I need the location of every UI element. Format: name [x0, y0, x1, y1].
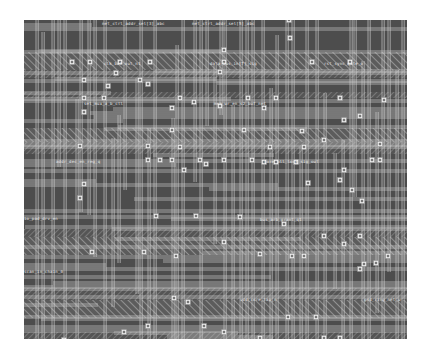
net-label: scan_in_chain_0	[24, 270, 63, 274]
net-label: sel_mux_a_b_ctl	[84, 102, 123, 106]
net-label: core_pll_lock_sig_out	[264, 160, 319, 164]
routing-diagram	[24, 20, 407, 339]
net-label: gnd_ring_net_w	[364, 298, 401, 302]
net-label: rst_sync_gate_o	[324, 62, 363, 66]
net-label: mem_wr_en_s2_buf_net	[214, 102, 266, 106]
net-label: net_ctrl_addr_sel[3]_abc	[102, 22, 165, 26]
net-label: bus_arb_grant_q1	[260, 218, 302, 222]
net-label: net_ctrl_addr_sel[5]_abc	[192, 22, 255, 26]
net-label: addr_dec_en_reg_q	[56, 160, 100, 164]
net-label: io_pad_drv_en	[24, 217, 58, 221]
via-icon	[62, 338, 67, 340]
net-label: data_bus_in[7]_sig	[210, 62, 257, 66]
layout-canvas[interactable]: net_ctrl_addr_sel[3]_abcnet_ctrl_addr_se…	[24, 20, 407, 339]
net-label: vdd_core_tap_n	[240, 298, 277, 302]
net-label: clk_buf_out_n1	[104, 62, 141, 66]
